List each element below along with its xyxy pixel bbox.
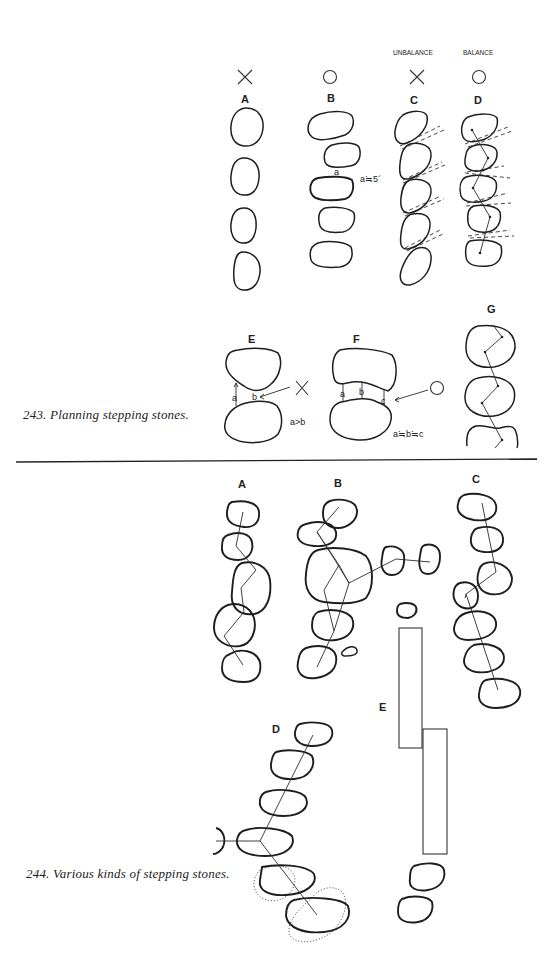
panel-label-b: B	[334, 477, 342, 489]
circle-icon	[324, 71, 337, 84]
panel-243-e: a b a>b	[225, 348, 308, 442]
panel-244-a	[214, 501, 270, 682]
panel-label-d: D	[272, 723, 280, 735]
header-balance: BALANCE	[463, 49, 494, 56]
panel-label-d: D	[474, 94, 482, 106]
panel-label-g: G	[487, 303, 496, 315]
section-divider	[16, 459, 537, 462]
page: UNBALANCE BALANCE A B C D a	[0, 0, 555, 967]
figure-243: UNBALANCE BALANCE A B C D a	[225, 49, 518, 448]
panel-label-a: A	[238, 478, 246, 490]
panel-label-b: B	[327, 92, 335, 104]
header-unbalance: UNBALANCE	[393, 49, 433, 56]
panel-244-d	[213, 722, 349, 941]
stepping-stones-diagram: UNBALANCE BALANCE A B C D a	[0, 0, 555, 967]
panel-label-a: A	[241, 93, 249, 105]
circle-icon	[473, 71, 486, 84]
gap-b-label: b	[359, 387, 364, 397]
panel-243-f: a b c a≒b≒c	[330, 349, 444, 440]
figure-244: A B C D E	[213, 473, 520, 942]
panel-244-b	[298, 500, 440, 679]
panel-243-b: a a≒5´	[308, 112, 381, 268]
gap-b-label: b	[252, 392, 257, 402]
panel-label-e: E	[248, 333, 255, 345]
panel-label-c: C	[410, 94, 418, 106]
panel-244-e	[398, 628, 447, 923]
annotation-a: a	[334, 167, 339, 177]
panel-243-c	[395, 111, 445, 285]
panel-label-c: C	[472, 473, 480, 485]
figure-244-caption: 244. Various kinds of stepping stones.	[26, 866, 230, 882]
panel-243-g	[465, 325, 518, 448]
panel-label-f: F	[353, 333, 360, 345]
gap-c-label: c	[381, 396, 386, 406]
gap-a-label: a	[340, 389, 345, 399]
panel-243-a	[231, 108, 263, 290]
panel-label-e: E	[379, 701, 386, 713]
panel-244-e-stone	[397, 603, 417, 618]
figure-243-caption: 243. Planning stepping stones.	[23, 407, 189, 423]
cross-icon	[410, 70, 424, 84]
distance-note: a≒5´	[360, 174, 381, 184]
gap-note: a≒b≒c	[393, 429, 424, 439]
cross-icon	[238, 70, 252, 84]
panel-243-d	[460, 114, 514, 266]
gap-note: a>b	[290, 417, 305, 427]
panel-244-c	[453, 494, 520, 708]
gap-a-label: a	[232, 393, 237, 403]
